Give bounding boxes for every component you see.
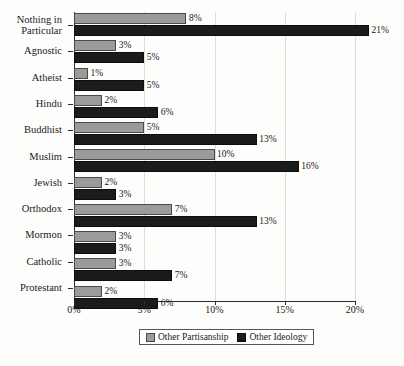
x-axis-tick-label: 0% <box>67 304 80 315</box>
bar-other-ideology[interactable] <box>74 107 158 118</box>
y-axis-category-label: Muslim <box>0 151 62 163</box>
bar-rows: 8%21%3%5%1%5%2%6%5%13%10%16%2%3%7%13%3%3… <box>74 12 404 301</box>
bar-value-label: 7% <box>172 202 187 216</box>
bar-other-ideology[interactable] <box>74 80 144 91</box>
y-axis-tick <box>68 104 73 105</box>
y-axis-category-label: Buddhist <box>0 124 62 136</box>
bar-value-label: 3% <box>116 38 131 52</box>
y-axis-category-label: Jewish <box>0 177 62 189</box>
bar-value-label: 13% <box>257 132 277 146</box>
y-axis-tick <box>68 209 73 210</box>
gray-swatch-icon <box>146 333 155 342</box>
bar-other-partisanship[interactable] <box>74 122 144 133</box>
bar-other-ideology[interactable] <box>74 161 299 172</box>
bar-other-ideology[interactable] <box>74 216 257 227</box>
bar-wrapper: 3% <box>74 243 404 254</box>
bar-value-label: 2% <box>102 175 117 189</box>
y-axis-tick <box>68 51 73 52</box>
y-axis-category-label: Orthodox <box>0 203 62 215</box>
y-axis-category-label: Agnostic <box>0 45 62 57</box>
bar-value-label: 1% <box>88 66 103 80</box>
bar-value-label: 7% <box>172 268 187 282</box>
bar-other-ideology[interactable] <box>74 270 172 281</box>
y-axis-category-label: Nothing inParticular <box>0 14 62 37</box>
bar-group: 3%7% <box>74 258 404 284</box>
bar-other-partisanship[interactable] <box>74 231 116 242</box>
bar-value-label: 8% <box>186 11 201 25</box>
bar-wrapper: 6% <box>74 107 404 118</box>
bar-group: 7%13% <box>74 204 404 230</box>
bar-wrapper: 10% <box>74 149 404 160</box>
bar-value-label: 5% <box>144 120 159 134</box>
bar-other-ideology[interactable] <box>74 134 257 145</box>
bar-wrapper: 3% <box>74 40 404 51</box>
legend-item-other-partisanship[interactable]: Other Partisanship <box>146 332 228 342</box>
x-axis-tick-label: 10% <box>205 304 223 315</box>
bar-wrapper: 13% <box>74 134 404 145</box>
bar-other-partisanship[interactable] <box>74 13 186 24</box>
bar-value-label: 2% <box>102 284 117 298</box>
bar-other-partisanship[interactable] <box>74 95 102 106</box>
bar-wrapper: 5% <box>74 122 404 133</box>
bar-group: 8%21% <box>74 13 404 39</box>
bar-wrapper: 7% <box>74 204 404 215</box>
y-axis-tick <box>68 288 73 289</box>
bar-value-label: 13% <box>257 214 277 228</box>
bar-other-partisanship[interactable] <box>74 286 102 297</box>
y-axis-tick <box>68 25 73 26</box>
y-axis-category-label: Catholic <box>0 256 62 268</box>
x-axis-labels: 0%5%10%15%20% <box>74 304 374 320</box>
y-axis-tick <box>68 235 73 236</box>
bar-value-label: 3% <box>116 256 131 270</box>
y-axis-tick <box>68 130 73 131</box>
bar-value-label: 10% <box>215 147 235 161</box>
bar-value-label: 16% <box>299 159 319 173</box>
y-axis-tick <box>68 183 73 184</box>
cut-off-caption <box>0 360 404 366</box>
bar-group: 2%3% <box>74 177 404 203</box>
bar-wrapper: 16% <box>74 161 404 172</box>
bar-value-label: 6% <box>158 105 173 119</box>
bar-wrapper: 5% <box>74 80 404 91</box>
legend-item-other-ideology[interactable]: Other Ideology <box>237 332 307 342</box>
bar-group: 2%6% <box>74 95 404 121</box>
bar-wrapper: 3% <box>74 258 404 269</box>
bar-wrapper: 2% <box>74 95 404 106</box>
bar-other-ideology[interactable] <box>74 25 369 36</box>
legend-label: Other Ideology <box>249 332 307 342</box>
bar-wrapper: 2% <box>74 286 404 297</box>
bar-value-label: 5% <box>144 78 159 92</box>
bar-other-partisanship[interactable] <box>74 40 116 51</box>
bar-value-label: 3% <box>116 241 131 255</box>
bar-wrapper: 5% <box>74 52 404 63</box>
bar-group: 1%5% <box>74 68 404 94</box>
bar-other-ideology[interactable] <box>74 52 144 63</box>
chart-figure: Nothing inParticularAgnosticAtheistHindu… <box>0 0 404 366</box>
bar-wrapper: 7% <box>74 270 404 281</box>
bar-wrapper: 8% <box>74 13 404 24</box>
bar-other-partisanship[interactable] <box>74 68 88 79</box>
y-axis-tick <box>68 157 73 158</box>
legend-label: Other Partisanship <box>158 332 228 342</box>
black-swatch-icon <box>237 333 246 342</box>
bar-group: 3%3% <box>74 231 404 257</box>
bar-group: 10%16% <box>74 149 404 175</box>
bar-other-partisanship[interactable] <box>74 177 102 188</box>
x-axis-tick-label: 5% <box>138 304 151 315</box>
bar-wrapper: 1% <box>74 68 404 79</box>
bar-other-partisanship[interactable] <box>74 149 215 160</box>
bar-other-ideology[interactable] <box>74 243 116 254</box>
bar-wrapper: 3% <box>74 189 404 200</box>
bar-wrapper: 21% <box>74 25 404 36</box>
bar-other-partisanship[interactable] <box>74 258 116 269</box>
bar-other-ideology[interactable] <box>74 189 116 200</box>
bar-group: 5%13% <box>74 122 404 148</box>
x-axis-tick-label: 20% <box>346 304 364 315</box>
y-axis-labels: Nothing inParticularAgnosticAtheistHindu… <box>0 12 68 301</box>
bar-other-partisanship[interactable] <box>74 204 172 215</box>
y-axis-category-label: Protestant <box>0 282 62 294</box>
y-axis-category-label: Atheist <box>0 72 62 84</box>
bar-value-label: 5% <box>144 50 159 64</box>
bar-value-label: 2% <box>102 93 117 107</box>
bar-value-label: 3% <box>116 187 131 201</box>
